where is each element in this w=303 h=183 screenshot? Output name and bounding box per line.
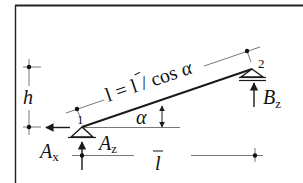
span-label: l	[155, 152, 161, 174]
height-dimension: h	[23, 59, 41, 135]
reaction-bz: Bz	[254, 83, 281, 111]
node-2-label: 2	[258, 56, 265, 71]
length-formula: l = l / cos α	[102, 56, 195, 106]
dimension-dot-bottom	[27, 125, 31, 129]
dimension-dot-top	[27, 65, 31, 69]
dimension-dot-left	[75, 107, 79, 111]
span-dot-left	[80, 153, 84, 157]
dimension-dot-right	[245, 49, 249, 53]
reaction-bz-label: Bz	[263, 86, 281, 111]
support-2-roller: 2	[239, 56, 266, 81]
angle-indicator: α	[136, 106, 162, 128]
node-1-label: 1	[77, 112, 84, 127]
support-1-pin: 1	[68, 112, 96, 138]
reaction-az-label: Az	[97, 132, 117, 156]
angle-label: α	[136, 106, 147, 128]
height-label: h	[23, 86, 33, 108]
reaction-ax-label: Ax	[38, 140, 59, 164]
length-dimension: l = l / cos α	[66, 47, 260, 117]
span-dot-right	[253, 153, 257, 157]
reaction-ax: Ax	[38, 128, 70, 165]
beam-diagram: h l = l / cos α α 1 2	[0, 0, 303, 183]
